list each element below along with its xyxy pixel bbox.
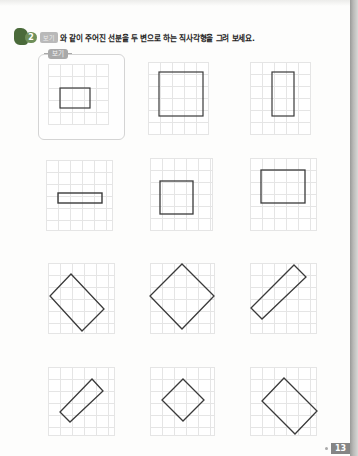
square-shape [150,158,212,230]
question-number-icon: 2 [14,28,38,46]
page-number-marker [325,447,328,450]
question-number: 2 [25,32,37,43]
instruction-text: 와 같이 주어진 선분을 두 변으로 하는 직사각형을 그려 보세요. [60,32,255,43]
book-binding-edge [350,0,358,456]
example-tag: 보기 [40,32,58,43]
square-shape [148,62,208,134]
grid-panel-10[interactable] [150,367,215,436]
workbook-page: 2 보기 와 같이 주어진 선분을 두 변으로 하는 직사각형을 그려 보세요.… [0,0,350,456]
grid-panel-7[interactable] [150,263,215,334]
diagonal-rectangle-shape [250,367,316,435]
page-top-shadow [0,0,350,6]
grid-panel-5[interactable] [250,158,317,231]
grid-panel-9[interactable] [48,367,115,436]
grid-panel-1[interactable] [148,62,209,135]
grid-panel-4[interactable] [150,158,213,231]
grid-panel-example [48,64,109,125]
diagonal-thin-rectangle-shape [250,263,316,333]
diagonal-square-shape [150,367,214,435]
tall-rectangle-shape [250,62,310,134]
diagonal-square-shape [150,263,214,333]
diagonal-rectangle-shape [48,263,114,333]
example-label: 보기 [48,49,68,59]
grid-panel-8[interactable] [250,263,317,334]
grid-panel-3[interactable] [46,160,113,231]
page-number: 13 [331,443,350,454]
diagonal-thin-rectangle-shape [48,367,114,435]
grid-panel-2[interactable] [250,62,311,135]
grid-panel-11[interactable] [250,367,317,436]
question-header: 2 보기 와 같이 주어진 선분을 두 변으로 하는 직사각형을 그려 보세요. [14,28,255,46]
thin-rectangle-shape [46,160,112,230]
rectangle-shape [48,64,108,124]
grid-panel-6[interactable] [48,263,115,334]
rectangle-shape [250,158,316,230]
